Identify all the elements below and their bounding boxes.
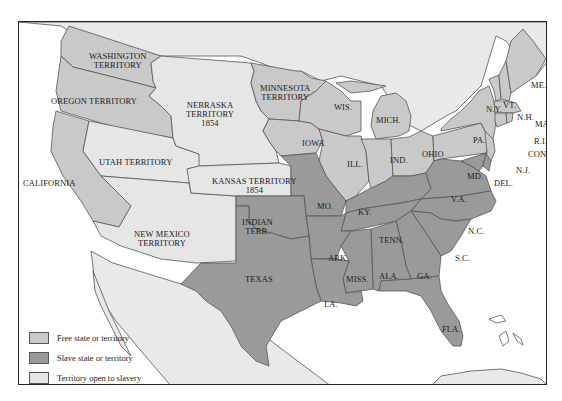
- legend-swatch-free: [29, 332, 49, 344]
- bahamas-islands: [489, 315, 523, 346]
- label-new-hampshire: N.H.: [517, 113, 534, 122]
- legend-item-free: Free state or territory: [29, 328, 141, 348]
- label-south-carolina: S.C.: [455, 254, 470, 263]
- label-arkansas: ARK.: [328, 254, 348, 263]
- label-louisiana: LA.: [324, 300, 338, 309]
- label-maryland: MD.: [467, 172, 483, 181]
- label-maine: ME.: [531, 81, 546, 90]
- label-indiana: IND.: [390, 156, 408, 165]
- label-ohio: OHIO: [422, 150, 444, 159]
- label-california: CALIFORNIA: [23, 179, 75, 188]
- region-connecticut: [495, 113, 507, 127]
- label-new-mexico: NEW MEXICOTERRITORY: [134, 230, 190, 248]
- label-indian-territory: INDIANTERR.: [242, 218, 273, 236]
- label-washington: WASHINGTONTERRITORY: [89, 52, 147, 70]
- legend-label: Territory open to slavery: [57, 373, 141, 383]
- label-illinois: ILL.: [347, 160, 363, 169]
- legend-swatch-slave: [29, 352, 49, 364]
- legend-swatch-open: [29, 372, 49, 384]
- label-rhode-island: R.I.: [534, 137, 547, 146]
- legend-label: Free state or territory: [57, 333, 129, 343]
- label-delaware: DEL.: [494, 179, 513, 188]
- label-wisconsin: WIS.: [334, 103, 352, 112]
- legend-label: Slave state or territory: [57, 353, 133, 363]
- label-new-jersey: N.J.: [516, 166, 530, 175]
- region-rhode-island: [506, 113, 513, 123]
- label-connecticut: CONN.: [528, 150, 547, 159]
- label-florida: FLA.: [442, 325, 461, 334]
- label-michigan: MICH.: [376, 116, 401, 125]
- label-massachusetts: MASS.: [535, 120, 547, 129]
- label-utah: UTAH TERRITORY: [99, 158, 172, 167]
- label-kansas: KANSAS TERRITORY1854: [212, 177, 297, 195]
- map-legend: Free state or territory Slave state or t…: [29, 328, 141, 385]
- label-kentucky: KY.: [358, 208, 372, 217]
- label-iowa: IOWA: [302, 139, 325, 148]
- cuba-island: [431, 369, 547, 385]
- label-north-carolina: N.C.: [468, 227, 484, 236]
- label-missouri: MO.: [317, 202, 333, 211]
- label-tennessee: TENN.: [379, 236, 404, 245]
- label-virginia: V.A.: [451, 195, 467, 204]
- label-minnesota: MINNESOTATERRITORY: [260, 84, 310, 102]
- label-texas: TEXAS: [245, 275, 273, 284]
- label-nebraska: NEBRASKATERRITORY1854: [186, 101, 234, 128]
- legend-item-slave: Slave state or territory: [29, 348, 141, 368]
- label-georgia: GA.: [417, 272, 432, 281]
- label-alabama: ALA.: [379, 272, 399, 281]
- label-new-york: N.Y.: [486, 105, 502, 114]
- legend-item-open: Territory open to slavery: [29, 368, 141, 385]
- label-pennsylvania: PA.: [473, 136, 486, 145]
- label-mississippi: MISS.: [346, 275, 368, 284]
- label-oregon: OREGON TERRITORY: [51, 97, 137, 106]
- label-vermont: VT.: [503, 101, 516, 110]
- region-florida: [379, 276, 463, 346]
- map-frame: WASHINGTONTERRITORY OREGON TERRITORY CAL…: [18, 21, 547, 385]
